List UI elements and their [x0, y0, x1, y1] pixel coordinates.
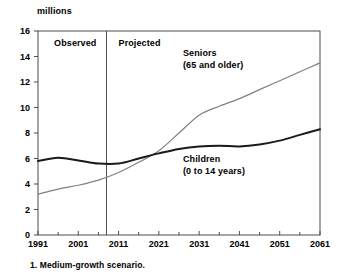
y-tick-label: 12 [6, 77, 30, 87]
series-label-children-line1: Children [183, 154, 220, 164]
y-tick-label: 8 [6, 128, 30, 138]
x-tick-label: 2031 [179, 239, 219, 249]
series-label-children-line2: (0 to 14 years) [183, 166, 245, 176]
x-tick-label: 2051 [260, 239, 300, 249]
y-tick-label: 4 [6, 179, 30, 189]
region-label-observed: Observed [54, 38, 96, 48]
x-tick-label: 2061 [300, 239, 340, 249]
region-label-projected: Projected [119, 38, 161, 48]
series-label-seniors-line2: (65 and older) [183, 60, 243, 70]
series-label-seniors: Seniors(65 and older) [183, 48, 243, 70]
y-tick-label: 6 [6, 154, 30, 164]
y-tick-label: 16 [6, 26, 30, 36]
series-label-seniors-line1: Seniors [183, 48, 217, 58]
series-label-children: Children(0 to 14 years) [183, 154, 245, 176]
x-tick-label: 2001 [58, 239, 98, 249]
population-chart-figure: millions 0246810121416199120012011202120… [0, 0, 341, 280]
chart-plot-area [0, 0, 341, 280]
x-tick-label: 1991 [18, 239, 58, 249]
y-tick-label: 14 [6, 52, 30, 62]
y-tick-label: 10 [6, 103, 30, 113]
chart-footnote: 1. Medium-growth scenario. [30, 260, 145, 270]
y-tick-label: 2 [6, 205, 30, 215]
x-tick-label: 2021 [139, 239, 179, 249]
x-tick-label: 2011 [99, 239, 139, 249]
x-tick-label: 2041 [219, 239, 259, 249]
